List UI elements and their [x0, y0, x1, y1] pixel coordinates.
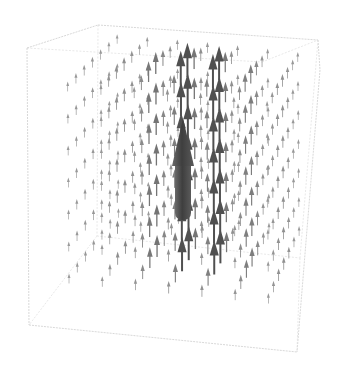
vector-arrow-icon	[200, 220, 204, 232]
vector-arrow-icon	[122, 88, 126, 102]
vector-arrow-icon	[262, 232, 265, 244]
vector-arrow-icon	[108, 160, 111, 170]
vector-arrow-icon	[271, 123, 274, 135]
vector-arrow-icon	[140, 201, 144, 216]
vector-arrow-icon	[255, 180, 259, 195]
vector-arrow-icon	[271, 218, 274, 230]
vector-arrow-icon	[177, 237, 186, 271]
vector-arrow-icon	[83, 158, 86, 169]
vector-arrow-icon	[271, 92, 274, 104]
vector-arrow-icon	[140, 233, 144, 248]
vector-arrow-icon	[168, 46, 171, 58]
vector-arrow-icon	[291, 60, 294, 71]
vector-arrow-icon	[281, 135, 285, 148]
vector-arrow-icon	[173, 264, 178, 283]
box-edge	[300, 40, 318, 258]
vector-arrow-icon	[206, 42, 209, 53]
vector-arrow-icon	[282, 226, 286, 239]
vector-arrow-icon	[133, 118, 136, 130]
vector-arrow-icon	[67, 242, 70, 252]
box-edge	[98, 25, 318, 40]
vector-arrow-icon	[255, 210, 259, 225]
box-edge	[29, 325, 297, 352]
vector-arrow-icon	[154, 235, 160, 257]
vector-arrow-icon	[266, 49, 269, 59]
vector-arrow-icon	[75, 168, 78, 178]
vector-arrow-icon	[166, 217, 170, 230]
vector-arrow-icon	[282, 257, 286, 270]
vector-arrow-icon	[234, 289, 237, 300]
vector-arrow-icon	[249, 125, 254, 144]
vector-arrow-icon	[147, 216, 153, 237]
vector-arrow-icon	[154, 174, 160, 196]
vector-arrow-icon	[191, 78, 197, 100]
vector-arrow-icon	[255, 90, 259, 105]
box-edge	[29, 236, 97, 325]
vector-arrow-icon	[215, 46, 224, 80]
vector-arrow-icon	[107, 106, 110, 118]
vector-arrow-icon	[210, 240, 219, 274]
vector-arrow-icon	[267, 261, 270, 271]
vector-arrow-icon	[83, 65, 86, 76]
vector-arrow-icon	[215, 107, 224, 141]
vector-arrow-icon	[192, 108, 198, 130]
vector-arrow-icon	[276, 206, 280, 219]
vector-arrow-icon	[162, 230, 166, 246]
vector-arrow-icon	[146, 154, 152, 175]
vector-arrow-icon	[199, 124, 203, 136]
box-edge	[97, 25, 98, 236]
vector-arrow-icon	[292, 237, 295, 248]
vector-arrow-icon	[116, 220, 120, 233]
vector-arrow-icon	[236, 103, 239, 114]
vector-arrow-icon	[291, 89, 294, 100]
vector-arrow-icon	[266, 78, 269, 88]
vector-arrow-icon	[276, 82, 280, 95]
vector-arrow-icon	[249, 156, 254, 175]
vector-arrow-icon	[282, 196, 286, 209]
vector-arrow-icon	[200, 225, 204, 238]
vector-arrow-icon	[297, 110, 300, 120]
vector-arrow-icon	[134, 278, 137, 290]
vector-arrow-icon	[205, 173, 210, 191]
vector-arrow-icon	[161, 50, 165, 66]
vector-arrow-icon	[67, 146, 70, 156]
vector-arrow-icon	[108, 232, 111, 244]
vector-arrow-icon	[166, 185, 170, 198]
box-edge	[297, 70, 320, 352]
vector-arrow-icon	[139, 191, 142, 202]
vector-arrow-icon	[117, 150, 120, 159]
vector-arrow-icon	[123, 149, 127, 163]
vector-arrow-icon	[123, 210, 127, 224]
vector-arrow-icon	[133, 86, 136, 98]
vector-arrow-icon	[244, 228, 249, 246]
vector-arrow-icon	[169, 75, 172, 87]
vector-arrow-icon	[233, 225, 236, 236]
vector-arrow-icon	[167, 281, 171, 294]
vector-arrow-icon	[92, 240, 95, 251]
vector-arrow-icon	[281, 165, 285, 178]
vector-arrow-icon	[100, 139, 103, 149]
vector-arrow-icon	[139, 221, 142, 232]
vector-arrow-icon	[209, 209, 218, 243]
vector-arrow-icon	[256, 240, 260, 255]
vector-arrow-icon	[287, 157, 290, 169]
vector-arrow-icon	[230, 80, 234, 93]
vector-arrow-icon	[117, 179, 120, 188]
vector-arrow-icon	[238, 117, 242, 131]
vector-arrow-icon	[123, 118, 127, 132]
vector-arrow-icon	[281, 104, 285, 117]
vector-arrow-icon	[146, 61, 152, 82]
vector-arrow-icon	[239, 275, 243, 289]
vector-arrow-icon	[243, 73, 248, 91]
vector-arrow-icon	[205, 236, 210, 254]
vector-arrow-icon	[244, 259, 249, 277]
vector-arrow-icon	[100, 244, 103, 255]
vector-arrow-icon	[67, 114, 70, 124]
vector-arrow-icon	[232, 97, 235, 108]
vector-arrow-icon	[287, 217, 290, 229]
vector-arrow-icon	[107, 42, 110, 52]
vector-arrow-icon	[146, 37, 149, 47]
vector-arrow-icon	[122, 57, 126, 71]
vector-arrow-icon	[261, 114, 264, 126]
vector-arrow-icon	[166, 89, 170, 102]
